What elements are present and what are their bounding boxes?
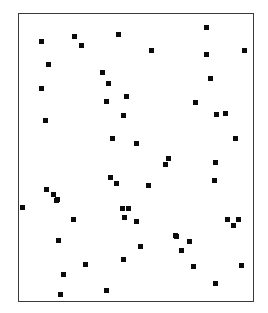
- plot-frame-border: [18, 13, 254, 302]
- scatter-plot-figure: [0, 0, 268, 313]
